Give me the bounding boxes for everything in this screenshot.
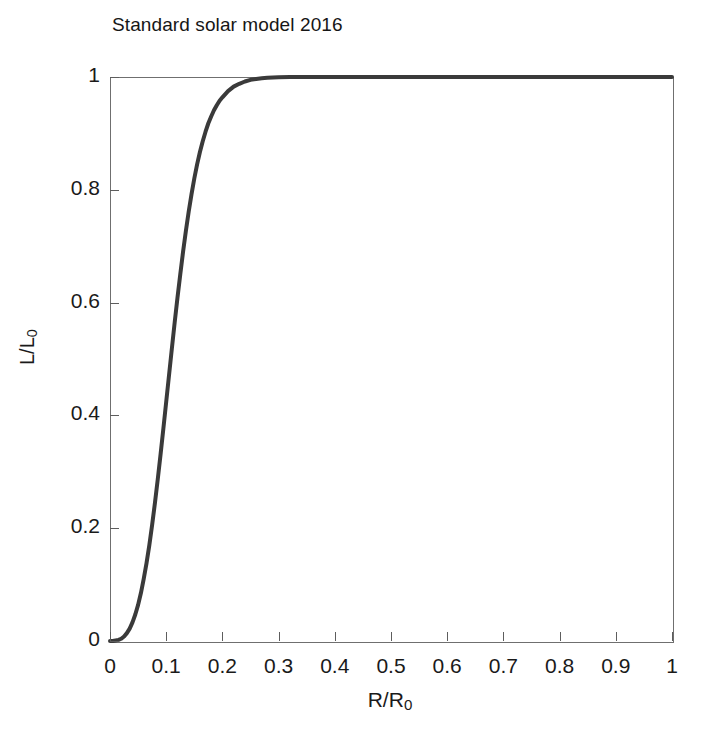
x-tick-mark: [447, 632, 448, 641]
y-tick-label: 1: [30, 63, 100, 87]
x-tick-mark: [616, 632, 617, 641]
luminosity-curve: [110, 77, 672, 641]
page-title: Standard solar model 2016: [112, 14, 343, 36]
plot-area: [110, 77, 672, 641]
x-tick-mark: [335, 632, 336, 641]
y-tick-label: 0.2: [30, 514, 100, 538]
x-tick-mark: [166, 632, 167, 641]
y-tick-mark: [110, 303, 119, 304]
y-tick-mark: [110, 641, 119, 642]
axis-title-subscript: 0: [24, 329, 40, 337]
y-axis-title: L/L0: [16, 302, 40, 392]
y-tick-label: 0.6: [30, 289, 100, 313]
y-tick-label: 0.4: [30, 401, 100, 425]
y-tick-mark: [110, 415, 119, 416]
x-tick-label: 1: [632, 654, 704, 678]
x-axis-title: R/R0: [38, 688, 704, 713]
y-tick-mark: [110, 190, 119, 191]
x-tick-mark: [503, 632, 504, 641]
x-tick-mark: [279, 632, 280, 641]
y-tick-label: 0.8: [30, 176, 100, 200]
x-tick-mark: [110, 632, 111, 641]
x-tick-mark: [560, 632, 561, 641]
x-tick-mark: [672, 632, 673, 641]
x-tick-mark: [222, 632, 223, 641]
solar-model-figure: Standard solar model 2016 00.20.40.60.81…: [0, 0, 704, 730]
y-tick-mark: [110, 77, 119, 78]
y-tick-label: 0: [30, 627, 100, 651]
axis-title-subscript: 0: [404, 696, 412, 713]
x-tick-mark: [391, 632, 392, 641]
y-tick-mark: [110, 528, 119, 529]
